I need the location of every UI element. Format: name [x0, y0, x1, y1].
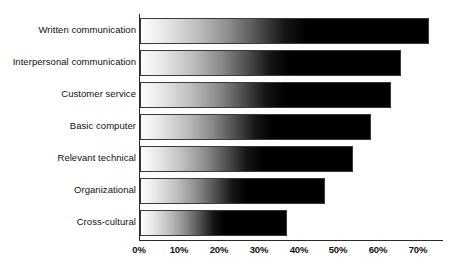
bar-row: Interpersonal communication [0, 46, 458, 78]
x-tick-label: 70% [398, 244, 438, 255]
bar-cross-cultural [140, 210, 287, 236]
bar-basic-computer [140, 114, 371, 140]
bar-customer-service [140, 82, 391, 108]
x-tick-label: 0% [119, 244, 159, 255]
bar-row: Written communication [0, 14, 458, 46]
x-tick-label: 10% [159, 244, 199, 255]
bar-interpersonal-communication [140, 50, 401, 76]
x-axis-line [139, 240, 443, 241]
bar-row: Customer service [0, 78, 458, 110]
bar-organizational [140, 178, 325, 204]
category-label: Interpersonal communication [13, 46, 136, 78]
bar-row: Organizational [0, 174, 458, 206]
category-label: Customer service [61, 78, 136, 110]
x-axis-tick-labels: 0% 10% 20% 30% 40% 50% 60% 70% [0, 244, 458, 262]
category-label: Relevant technical [57, 142, 136, 174]
bar-chart: Written communication Interpersonal comm… [0, 0, 458, 270]
bar-relevant-technical [140, 146, 353, 172]
x-tick-label: 30% [239, 244, 279, 255]
bar-row: Relevant technical [0, 142, 458, 174]
bar-rows: Written communication Interpersonal comm… [0, 14, 458, 240]
x-tick-label: 60% [358, 244, 398, 255]
x-tick-label: 20% [199, 244, 239, 255]
x-tick-label: 40% [279, 244, 319, 255]
category-label: Cross-cultural [77, 206, 136, 238]
bar-row: Cross-cultural [0, 206, 458, 238]
x-tick-label: 50% [318, 244, 358, 255]
bar-written-communication [140, 18, 429, 44]
category-label: Organizational [74, 174, 136, 206]
category-label: Basic computer [70, 110, 136, 142]
bar-row: Basic computer [0, 110, 458, 142]
category-label: Written communication [39, 14, 137, 46]
